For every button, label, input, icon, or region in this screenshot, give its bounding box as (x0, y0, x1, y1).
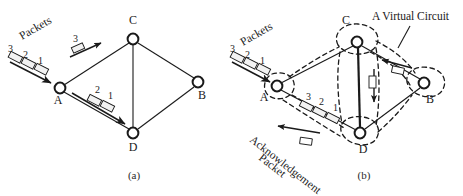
packets-label-b: Packets (238, 20, 275, 48)
network-figure: A B C D 3 2 1 Packets (0, 0, 463, 196)
node-label-c: C (129, 13, 137, 27)
node-d[interactable] (128, 128, 139, 139)
panel-caption-a: (a) (128, 169, 141, 182)
node-label-c: C (342, 13, 350, 27)
edge-d-b (138, 87, 194, 129)
edge-a-c (281, 46, 353, 83)
virtual-circuit-pointer (398, 26, 410, 48)
packet-seq-ac-3: 3 (73, 33, 78, 44)
panel-b-ack-packet (278, 126, 320, 145)
packet-seq-ad-1: 1 (333, 102, 338, 113)
packet-box-ad-1 (325, 112, 339, 123)
packet-seq-2: 2 (23, 49, 28, 60)
vc-link-d-b (378, 95, 412, 132)
packet-seq-3: 3 (8, 43, 13, 54)
node-label-a: A (54, 93, 63, 107)
node-d[interactable] (355, 128, 366, 139)
node-a[interactable] (272, 81, 283, 92)
acknowledgement-label-line1: Acknowledgement (247, 133, 324, 196)
packet-seq-ad-2: 2 (319, 96, 324, 107)
panel-b-packets-edge-ad: 3 2 1 (299, 91, 339, 124)
edge-d-b (365, 88, 420, 129)
vc-link-a-c (289, 47, 339, 77)
node-a[interactable] (55, 83, 66, 94)
packet-box-bc (391, 66, 404, 75)
panel-b: A B C D A Virtual Circuit 3 2 1 Packets (230, 10, 450, 196)
ack-packet-box (300, 137, 313, 145)
vc-link-c-d-left (338, 52, 342, 124)
panel-a-packets-edge-ad: 2 1 (72, 84, 125, 124)
packet-seq-3: 3 (230, 43, 235, 54)
panel-a: A B C D 3 2 1 Packets (8, 13, 206, 182)
figure-root: A B C D 3 2 1 Packets (0, 0, 463, 196)
panel-a-inbound-packets: 3 2 1 (8, 43, 51, 83)
node-b[interactable] (193, 77, 204, 88)
packets-label-a: Packets (17, 14, 54, 42)
ack-arrow-line (278, 126, 320, 133)
packet-box-ad-3 (299, 100, 313, 111)
node-c[interactable] (352, 37, 363, 48)
panel-a-edges (64, 43, 194, 129)
edge-c-b (138, 43, 194, 78)
node-label-d: D (359, 142, 368, 156)
node-b[interactable] (419, 78, 430, 89)
node-label-d: D (129, 140, 138, 154)
packet-seq-1: 1 (38, 55, 43, 66)
virtual-circuit-label: A Virtual Circuit (372, 10, 450, 22)
panel-b-inbound-packets: 3 2 1 (230, 43, 271, 82)
panel-b-packet-edge-cd (369, 69, 376, 102)
panel-b-nodes (272, 37, 430, 139)
panel-caption-b: (b) (358, 169, 371, 182)
vc-link-c-d-right (376, 48, 379, 126)
packet-seq-ad-3: 3 (306, 91, 311, 102)
packet-box-ad-2 (87, 94, 102, 106)
node-label-a: A (260, 90, 269, 104)
packet-seq-1: 1 (260, 55, 265, 66)
packet-seq-ad-1: 1 (108, 90, 113, 101)
packet-box-cd (369, 76, 376, 88)
ad-arrow-line (72, 93, 125, 124)
edge-c-d (358, 48, 360, 127)
packet-seq-ad-2: 2 (95, 84, 100, 95)
packet-seq-2: 2 (245, 49, 250, 60)
node-c[interactable] (128, 34, 139, 45)
packet-box-ad-2 (312, 106, 326, 117)
node-label-b: B (198, 88, 206, 102)
panel-a-packet-edge-ac: 3 (70, 33, 101, 57)
node-label-b: B (426, 92, 434, 106)
